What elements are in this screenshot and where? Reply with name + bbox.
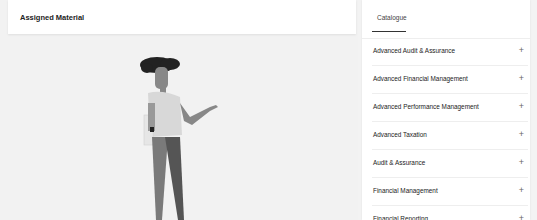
expand-plus-icon[interactable]: + bbox=[519, 129, 524, 139]
catalogue-item-label: Financial Reporting bbox=[373, 215, 428, 220]
expand-plus-icon[interactable]: + bbox=[519, 213, 524, 220]
catalogue-item[interactable]: Audit & Assurance + bbox=[372, 150, 528, 178]
left-area: Assigned Material bbox=[0, 0, 358, 220]
woman-illustration bbox=[130, 55, 240, 220]
catalogue-item[interactable]: Advanced Audit & Assurance + bbox=[372, 38, 528, 66]
tab-bar: Catalogue bbox=[362, 0, 530, 39]
catalogue-item-label: Audit & Assurance bbox=[373, 159, 425, 166]
expand-plus-icon[interactable]: + bbox=[519, 185, 524, 195]
catalogue-item-label: Financial Management bbox=[373, 187, 438, 194]
expand-plus-icon[interactable]: + bbox=[519, 73, 524, 83]
tab-catalogue[interactable]: Catalogue bbox=[377, 14, 407, 21]
catalogue-item-label: Advanced Financial Management bbox=[373, 75, 468, 82]
catalogue-item[interactable]: Financial Management + bbox=[372, 178, 528, 206]
catalogue-item[interactable]: Financial Reporting + bbox=[372, 206, 528, 220]
expand-plus-icon[interactable]: + bbox=[519, 45, 524, 55]
catalogue-item-label: Advanced Audit & Assurance bbox=[373, 47, 455, 54]
catalogue-item[interactable]: Advanced Taxation + bbox=[372, 122, 528, 150]
catalogue-item-label: Advanced Performance Management bbox=[373, 103, 479, 110]
expand-plus-icon[interactable]: + bbox=[519, 157, 524, 167]
catalogue-panel: Catalogue Advanced Audit & Assurance + A… bbox=[362, 0, 530, 220]
catalogue-item[interactable]: Advanced Financial Management + bbox=[372, 66, 528, 94]
catalogue-item-label: Advanced Taxation bbox=[373, 131, 427, 138]
catalogue-item[interactable]: Advanced Performance Management + bbox=[372, 94, 528, 122]
expand-plus-icon[interactable]: + bbox=[519, 101, 524, 111]
assigned-material-title: Assigned Material bbox=[20, 13, 84, 22]
active-tab-indicator bbox=[372, 31, 406, 32]
catalogue-list: Advanced Audit & Assurance + Advanced Fi… bbox=[372, 38, 528, 220]
assigned-material-card: Assigned Material bbox=[8, 0, 356, 34]
